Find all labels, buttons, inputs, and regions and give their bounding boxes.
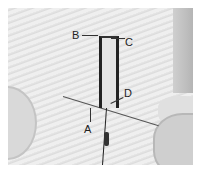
right-thumb [153,113,193,165]
leader-a [90,108,91,122]
leader-c [111,38,125,39]
label-b: B [72,30,79,41]
label-c: C [125,37,133,48]
buttonhole-photo [8,8,193,165]
leader-b [82,35,98,36]
buttonhole-stitching [99,36,119,108]
left-finger [8,86,37,160]
label-a: A [84,124,91,135]
background-shadow [173,8,193,93]
label-d: D [124,88,132,99]
thread-knot [104,132,109,146]
